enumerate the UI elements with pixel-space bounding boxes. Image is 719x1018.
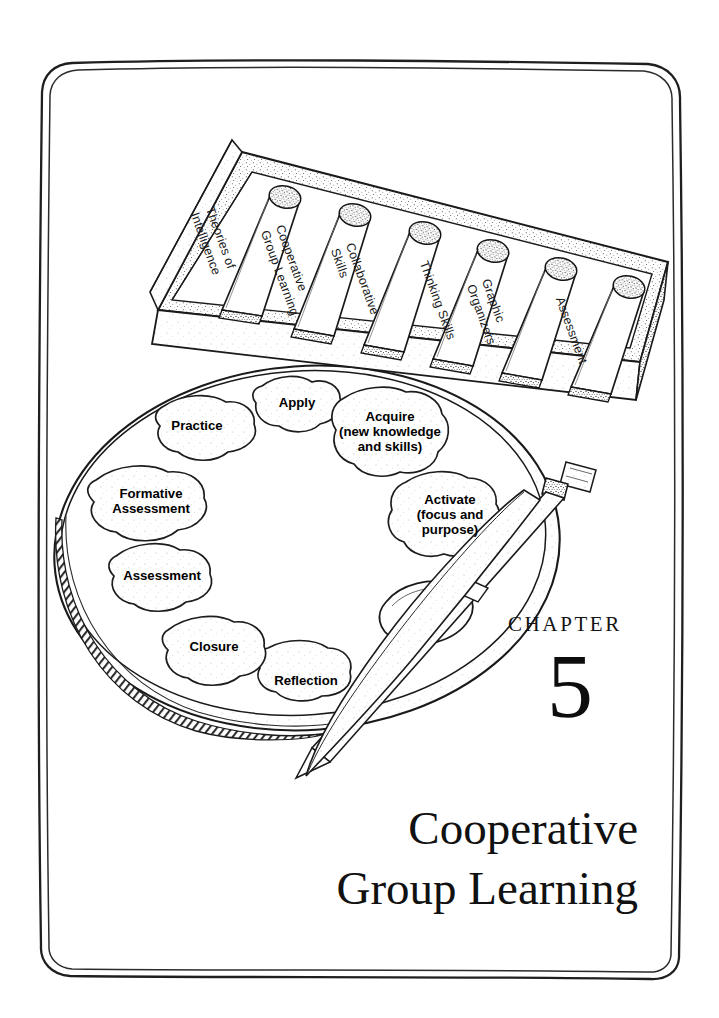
artist-palette [42,349,596,778]
blob-label-apply-line1: Apply [279,395,316,410]
chapter-opener-page: Theories of Intelligence Cooperative Gro… [0,0,719,1018]
chapter-label: CHAPTER [508,612,622,637]
blob-label-activate-line3: purpose) [417,523,484,538]
blob-label-practice: Practice [171,418,222,433]
blob-label-formative-line2: Assessment [112,501,190,516]
blob-label-reflection: Reflection [274,673,338,688]
paint-tube-box [150,140,668,402]
blob-label-closure: Closure [189,639,238,654]
blob-label-reflection-line1: Reflection [274,673,338,688]
blob-label-acquire-line2: (new knowledge [339,424,441,439]
chapter-number: 5 [520,640,620,732]
blob-label-acquire: Acquire (new knowledge and skills) [339,409,441,454]
blob-label-practice-line1: Practice [171,418,222,433]
blob-label-apply: Apply [279,395,316,410]
blob-label-activate-line1: Activate [417,492,484,507]
blob-label-activate-line2: (focus and [417,507,484,522]
page-title-line1: Cooperative [60,798,638,858]
blob-label-assessment-line1: Assessment [123,568,201,583]
blob-label-closure-line1: Closure [189,639,238,654]
page-title: Cooperative Group Learning [60,798,638,918]
blob-label-acquire-line3: and skills) [339,440,441,455]
blob-label-acquire-line1: Acquire [339,409,441,424]
blob-label-formative-line1: Formative [112,486,190,501]
blob-label-assessment: Assessment [123,568,201,583]
blob-label-formative-assessment: Formative Assessment [112,486,190,516]
blob-label-activate: Activate (focus and purpose) [417,492,484,537]
page-title-line2: Group Learning [60,858,638,918]
